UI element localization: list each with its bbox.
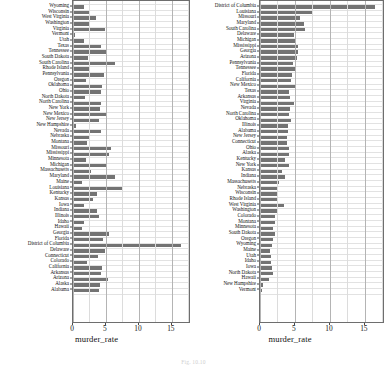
x-axis-tick-label: 15 bbox=[167, 325, 174, 333]
figure: WyomingWisconsinWest VirginiaWashingtonV… bbox=[0, 0, 387, 366]
bar bbox=[73, 67, 89, 71]
bar bbox=[260, 118, 291, 122]
x-axis-tick-label: 5 bbox=[103, 325, 107, 333]
bar bbox=[260, 238, 273, 242]
bar bbox=[260, 28, 305, 32]
bar bbox=[260, 221, 275, 225]
bar bbox=[73, 255, 98, 259]
bar bbox=[260, 16, 300, 20]
bar bbox=[73, 11, 89, 15]
bar bbox=[260, 90, 289, 94]
bar bbox=[73, 16, 96, 20]
bar bbox=[260, 113, 289, 117]
gridline-vertical bbox=[260, 1, 261, 322]
bar bbox=[260, 266, 272, 270]
bar bbox=[260, 181, 279, 185]
bar bbox=[73, 204, 84, 208]
bar bbox=[73, 192, 97, 196]
bar bbox=[260, 175, 285, 179]
bar bbox=[73, 84, 102, 88]
bar bbox=[73, 147, 111, 151]
gridline-vertical bbox=[106, 1, 107, 322]
bar bbox=[260, 153, 289, 157]
bar bbox=[73, 283, 100, 287]
bar bbox=[260, 141, 287, 145]
gridline-vertical bbox=[155, 1, 156, 322]
gridline-vertical bbox=[365, 1, 366, 322]
bar bbox=[73, 221, 84, 225]
chart-panel-right: District of ColumbiaLouisianaMissouriMar… bbox=[193, 0, 387, 345]
bar bbox=[260, 260, 271, 264]
gridline-vertical bbox=[139, 1, 140, 322]
bar bbox=[260, 22, 304, 26]
bar bbox=[260, 204, 284, 208]
y-axis-tick-label: Alabama bbox=[51, 287, 72, 293]
bar bbox=[260, 192, 277, 196]
bar bbox=[260, 107, 290, 111]
chart-panel-left: WyomingWisconsinWest VirginiaWashingtonV… bbox=[0, 0, 193, 345]
bar bbox=[73, 260, 87, 264]
figure-caption: Fig. 10.10 bbox=[0, 359, 387, 365]
plot-row-left: WyomingWisconsinWest VirginiaWashingtonV… bbox=[0, 0, 193, 323]
y-axis-tick-label: Vermont bbox=[239, 287, 259, 293]
bar bbox=[260, 50, 298, 54]
bar bbox=[260, 232, 275, 236]
bar bbox=[73, 107, 100, 111]
bar bbox=[260, 147, 289, 151]
x-axis-tick-label: 10 bbox=[134, 325, 141, 333]
bar bbox=[260, 124, 288, 128]
gridline-vertical bbox=[277, 1, 278, 322]
bar bbox=[73, 90, 101, 94]
plot-area-left bbox=[72, 0, 190, 323]
bar bbox=[73, 153, 109, 157]
bar bbox=[260, 209, 278, 213]
bar bbox=[260, 277, 269, 281]
bar bbox=[260, 187, 277, 191]
x-axis-tick-label: 10 bbox=[325, 325, 332, 333]
bar bbox=[73, 209, 97, 213]
gridline-vertical bbox=[188, 1, 189, 322]
bar bbox=[73, 170, 91, 174]
bar bbox=[260, 45, 298, 49]
bar bbox=[260, 135, 287, 139]
bar bbox=[73, 96, 85, 100]
bar bbox=[260, 272, 273, 276]
bar bbox=[260, 11, 313, 15]
gridline-vertical bbox=[73, 1, 74, 322]
bar bbox=[260, 198, 277, 202]
x-axis-title-left: murder_rate bbox=[0, 332, 193, 345]
gridline-vertical bbox=[172, 1, 173, 322]
bar bbox=[260, 249, 270, 253]
bar bbox=[260, 56, 297, 60]
bar bbox=[73, 175, 115, 179]
x-axis-tick-label: 0 bbox=[257, 325, 261, 333]
bar bbox=[73, 79, 86, 83]
x-axis-left: 051015 bbox=[0, 323, 193, 332]
x-axis-tick-label: 0 bbox=[70, 325, 74, 333]
x-axis-right: 051015 bbox=[193, 323, 387, 332]
bar bbox=[260, 215, 275, 219]
bar bbox=[260, 96, 290, 100]
bar bbox=[260, 79, 291, 83]
bar bbox=[73, 135, 89, 139]
bar bbox=[73, 238, 103, 242]
bar bbox=[260, 226, 273, 230]
bar bbox=[260, 243, 272, 247]
bar bbox=[73, 5, 84, 9]
bar bbox=[73, 22, 90, 26]
bar bbox=[260, 158, 285, 162]
bar bbox=[73, 272, 101, 276]
bar bbox=[73, 181, 82, 185]
x-axis-tick-label: 15 bbox=[360, 325, 367, 333]
chart-panels: WyomingWisconsinWest VirginiaWashingtonV… bbox=[0, 0, 387, 345]
bar bbox=[73, 289, 99, 293]
bar bbox=[73, 118, 99, 122]
bar bbox=[73, 130, 101, 134]
bar bbox=[260, 255, 271, 259]
bar bbox=[73, 266, 102, 270]
gridline-vertical bbox=[312, 1, 313, 322]
bar bbox=[73, 39, 84, 43]
bar bbox=[73, 62, 115, 66]
bar bbox=[260, 130, 288, 134]
bar bbox=[73, 56, 88, 60]
